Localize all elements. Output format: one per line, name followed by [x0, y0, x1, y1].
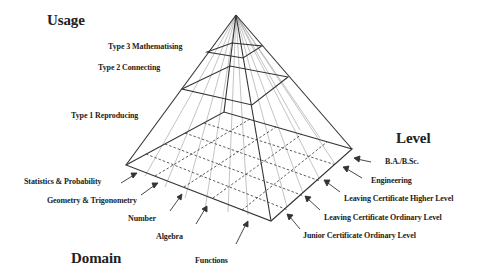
usage-label-type3: Type 3 Mathematising: [108, 42, 182, 51]
usage-label-type1: Type 1 Reproducing: [71, 111, 138, 120]
axis-title-domain: Domain: [71, 250, 121, 267]
domain-label-functions: Functions: [195, 256, 228, 265]
usage-label-type2: Type 2 Connecting: [98, 63, 160, 72]
level-label-jc-ordinary: Junior Certificate Ordinary Level: [303, 231, 416, 240]
domain-label-algebra: Algebra: [156, 232, 183, 241]
domain-label-statistics: Statistics & Probability: [24, 177, 101, 186]
level-label-ba-bsc: B.A./B.Sc.: [385, 157, 419, 166]
domain-label-number: Number: [128, 214, 156, 223]
level-label-lc-higher: Leaving Certificate Higher Level: [344, 194, 453, 203]
axis-title-level: Level: [396, 130, 431, 147]
axis-title-usage: Usage: [47, 12, 85, 29]
level-label-engineering: Engineering: [371, 176, 412, 185]
level-label-lc-ordinary: Leaving Certificate Ordinary Level: [324, 213, 442, 222]
domain-label-geometry: Geometry & Trigonometry: [47, 196, 137, 205]
